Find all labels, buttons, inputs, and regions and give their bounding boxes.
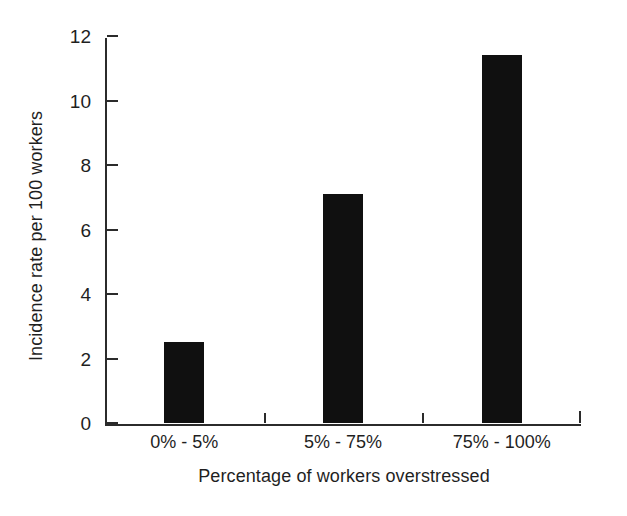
x-axis-title: Percentage of workers overstressed [105, 466, 583, 487]
x-category-label: 5% - 75% [264, 432, 423, 453]
x-tick-mark [422, 413, 424, 423]
y-tick-label: 2 [80, 349, 91, 368]
y-tick-mark [107, 35, 118, 37]
bar [482, 55, 522, 423]
x-axis-end-cap [579, 411, 581, 423]
x-axis-spine [105, 424, 581, 426]
bar-chart-figure: Incidence rate per 100 workers 024681012… [0, 0, 627, 516]
y-tick-label: 12 [70, 27, 91, 46]
y-axis-spine [105, 38, 107, 426]
x-category-label: 75% - 100% [422, 432, 581, 453]
y-tick-mark [107, 229, 118, 231]
plot-area: 024681012 [105, 38, 581, 425]
x-tick-mark [264, 413, 266, 423]
y-tick-label: 10 [70, 91, 91, 110]
y-axis-title: Incidence rate per 100 workers [14, 16, 58, 456]
bar [323, 194, 363, 423]
y-tick-mark [107, 358, 118, 360]
x-category-label: 0% - 5% [105, 432, 264, 453]
y-tick-mark [107, 293, 118, 295]
y-tick-mark [107, 100, 118, 102]
y-tick-label: 8 [80, 156, 91, 175]
y-tick-label: 6 [80, 220, 91, 239]
y-tick-label: 4 [80, 285, 91, 304]
y-tick-mark [107, 422, 118, 424]
y-tick-label: 0 [80, 414, 91, 433]
bar [164, 342, 204, 423]
y-tick-mark [107, 164, 118, 166]
